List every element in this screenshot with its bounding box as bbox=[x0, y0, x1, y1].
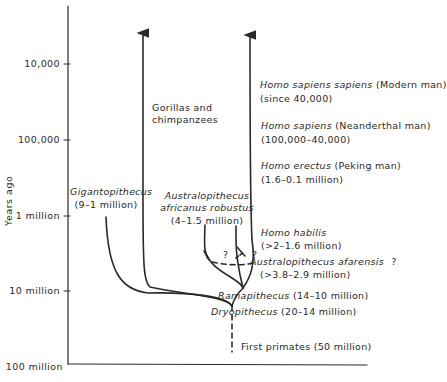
uncertain-mark-left: ? bbox=[223, 249, 228, 261]
gorillas-line1: Gorillas and bbox=[152, 102, 218, 114]
modern-man-label: Homo sapiens sapiens (Modern man) (since… bbox=[260, 79, 447, 105]
erectus-label: Homo erectus (Peking man) (1.6–0.1 milli… bbox=[261, 160, 401, 186]
dryopithecus-name: Dryopithecus bbox=[211, 306, 278, 317]
afarensis-label: Australopithecus afarensis ? (>3.8–2.9 m… bbox=[250, 256, 397, 281]
robustus-name2: africanus robustus bbox=[152, 202, 262, 214]
erectus-common: (Peking man) bbox=[334, 160, 401, 171]
ramapithecus-name: Ramapithecus bbox=[218, 290, 290, 301]
gigantopithecus-range: (9–1 million) bbox=[70, 199, 142, 211]
gorillas-line2: chimpanzees bbox=[152, 114, 218, 126]
robustus-name1: Australopithecus bbox=[152, 190, 262, 202]
gigantopithecus-label: Gigantopithecus (9–1 million) bbox=[70, 186, 142, 211]
first-primates-label: First primates (50 million) bbox=[241, 341, 371, 353]
modern-man-name: Homo sapiens sapiens bbox=[260, 79, 373, 90]
ramapithecus-range: (14–10 million) bbox=[293, 290, 369, 301]
modern-man-common: (Modern man) bbox=[376, 79, 447, 90]
uncertain-mark-right: ? bbox=[252, 249, 257, 261]
robustus-range: (4–1.5 million) bbox=[152, 215, 262, 227]
tick-100000: 100,000 bbox=[0, 134, 60, 145]
afarensis-query: ? bbox=[391, 256, 396, 267]
erectus-range: (1.6–0.1 million) bbox=[261, 174, 401, 186]
neanderthal-range: (100,000–40,000) bbox=[261, 134, 431, 146]
habilis-name: Homo habilis bbox=[261, 227, 342, 239]
gigantopithecus-name: Gigantopithecus bbox=[70, 186, 142, 198]
neanderthal-common: (Neanderthal man) bbox=[335, 120, 430, 131]
modern-man-range: (since 40,000) bbox=[260, 93, 447, 105]
afarensis-name: Australopithecus afarensis bbox=[250, 256, 384, 267]
afarensis-range: (>3.8–2.9 million) bbox=[260, 269, 397, 281]
ramapithecus-label: Ramapithecus (14–10 million) bbox=[218, 290, 368, 302]
neanderthal-label: Homo sapiens (Neanderthal man) (100,000–… bbox=[261, 120, 431, 146]
tick-100-million: 100 million bbox=[3, 361, 63, 372]
tick-10-million: 10 million bbox=[0, 285, 60, 296]
uncertain-link-left bbox=[206, 252, 253, 265]
neanderthal-name: Homo sapiens bbox=[261, 120, 332, 131]
tick-1-million: 1 million bbox=[0, 210, 60, 221]
dryopithecus-label: Dryopithecus (20–14 million) bbox=[211, 306, 357, 318]
erectus-name: Homo erectus bbox=[261, 160, 331, 171]
dryopithecus-range: (20–14 million) bbox=[281, 306, 357, 317]
habilis-range: (>2–1.6 million) bbox=[261, 240, 342, 252]
gorillas-label: Gorillas and chimpanzees bbox=[152, 102, 218, 126]
gorilla-branch bbox=[143, 33, 232, 306]
tick-10000: 10,000 bbox=[0, 58, 60, 69]
habilis-label: Homo habilis (>2–1.6 million) bbox=[261, 227, 342, 252]
robustus-label: Australopithecus africanus robustus (4–1… bbox=[152, 190, 262, 227]
